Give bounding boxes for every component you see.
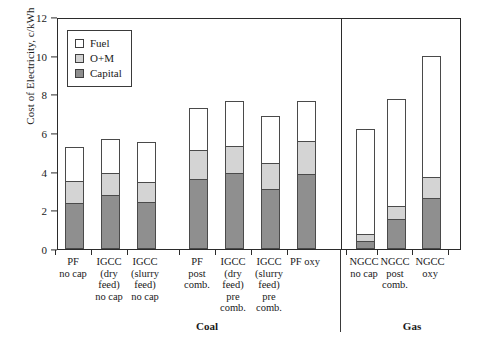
bar-segment-om xyxy=(422,177,441,199)
bar-5 xyxy=(225,101,244,249)
bar-2 xyxy=(101,139,120,249)
bar-segment-capital xyxy=(422,198,441,249)
bar-segment-capital xyxy=(297,174,316,249)
bar-segment-capital xyxy=(261,189,280,249)
legend-label-fuel: Fuel xyxy=(90,38,110,49)
bar-segment-capital xyxy=(65,203,84,249)
legend-swatch-om-icon xyxy=(75,54,84,63)
legend-item-fuel: Fuel xyxy=(75,36,122,51)
bar-segment-om xyxy=(297,141,316,175)
group-labels: Coal Gas xyxy=(57,320,461,340)
legend: Fuel O+M Capital xyxy=(67,30,132,87)
legend-swatch-capital-icon xyxy=(75,69,84,78)
x-tick-mark xyxy=(55,250,56,255)
bar-segment-capital xyxy=(137,202,156,249)
group-label-coal: Coal xyxy=(196,320,218,332)
bar-segment-fuel xyxy=(101,139,120,174)
bar-segment-om xyxy=(225,146,244,174)
bar-1 xyxy=(65,147,84,249)
bar-10 xyxy=(422,56,441,249)
bar-segment-fuel xyxy=(137,142,156,184)
legend-label-om: O+M xyxy=(90,53,114,64)
x-tick-mark xyxy=(251,250,252,255)
bar-4 xyxy=(189,108,208,249)
bar-8 xyxy=(356,129,375,249)
chart-root: Cost of Electricity, c/kWh 0 2 4 6 8 10 … xyxy=(0,0,478,359)
x-axis-label-7: PF oxy xyxy=(282,256,328,268)
y-tick-label-2: 2 xyxy=(1,205,47,217)
legend-swatch-fuel-icon xyxy=(75,39,84,48)
bar-3 xyxy=(137,142,156,249)
x-axis-label-3: IGCC(slurryfeed)no cap xyxy=(122,256,168,302)
x-tick-mark xyxy=(377,250,378,255)
legend-item-om: O+M xyxy=(75,51,122,66)
bar-segment-fuel xyxy=(422,56,441,178)
bar-segment-fuel xyxy=(387,99,406,206)
bar-segment-fuel xyxy=(65,147,84,182)
x-tick-mark xyxy=(179,250,180,255)
x-axis-label-10: NGCCoxy xyxy=(407,256,453,279)
y-tick-label-6: 6 xyxy=(1,128,47,140)
y-tick-label-0: 0 xyxy=(1,244,47,256)
bar-7 xyxy=(297,101,316,249)
bar-segment-om xyxy=(387,206,406,221)
y-tick-label-4: 4 xyxy=(1,167,47,179)
x-axis-tick-marks xyxy=(57,250,461,255)
x-tick-mark xyxy=(412,250,413,255)
bar-segment-om xyxy=(137,182,156,202)
bar-segment-fuel xyxy=(297,101,316,142)
bar-segment-fuel xyxy=(356,129,375,234)
legend-item-capital: Capital xyxy=(75,66,122,81)
bar-segment-capital xyxy=(387,219,406,249)
x-axis-category-labels: PFno capIGCC(dryfeed)no capIGCC(slurryfe… xyxy=(57,256,461,316)
x-tick-mark xyxy=(215,250,216,255)
x-tick-mark xyxy=(91,250,92,255)
bar-segment-fuel xyxy=(225,101,244,146)
bar-segment-om xyxy=(189,150,208,181)
bar-segment-om xyxy=(101,173,120,196)
bar-segment-capital xyxy=(225,173,244,249)
x-tick-mark xyxy=(448,250,449,255)
y-tick-label-10: 10 xyxy=(1,51,47,63)
bar-segment-capital xyxy=(189,179,208,249)
x-tick-mark xyxy=(287,250,288,255)
x-tick-mark xyxy=(127,250,128,255)
bar-segment-om xyxy=(261,163,280,190)
group-label-gas: Gas xyxy=(403,320,421,332)
bar-6 xyxy=(261,116,280,249)
y-tick-label-12: 12 xyxy=(1,12,47,24)
y-tick-label-8: 8 xyxy=(1,89,47,101)
bar-segment-fuel xyxy=(189,108,208,151)
bar-segment-fuel xyxy=(261,116,280,164)
bar-segment-om xyxy=(65,181,84,204)
y-axis-tick-labels: 0 2 4 6 8 10 12 xyxy=(0,18,57,250)
bar-segment-capital xyxy=(356,241,375,249)
legend-label-capital: Capital xyxy=(90,68,122,79)
group-divider-line xyxy=(341,19,342,249)
bar-segment-capital xyxy=(101,195,120,249)
bar-9 xyxy=(387,99,406,249)
x-tick-mark xyxy=(346,250,347,255)
